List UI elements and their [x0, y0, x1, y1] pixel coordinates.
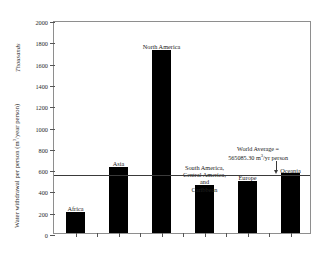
- y-tick-mark: [50, 65, 55, 66]
- bar-label-line: Asia: [94, 160, 142, 167]
- y-tick-label: 800: [39, 146, 48, 153]
- plot-inner: 0200400600800100012001400160018002000Afr…: [54, 22, 310, 233]
- chart-root: Thousands Water withdrawal per person (m…: [0, 0, 321, 256]
- y-tick-label: 400: [39, 189, 48, 196]
- y-tick-label: 600: [39, 168, 48, 175]
- x-tick-mark: [183, 233, 184, 237]
- bar-label: Africa: [51, 205, 99, 212]
- bar-label-line: North America: [137, 43, 185, 50]
- y-tick-label: 1000: [35, 125, 48, 132]
- y-axis-title-main: Water withdrawal per person (m: [13, 141, 20, 228]
- y-tick-label: 200: [39, 210, 48, 217]
- bar-label-line: Africa: [51, 205, 99, 212]
- x-tick-mark: [248, 233, 249, 237]
- y-tick-mark: [50, 107, 55, 108]
- bar-label: Asia: [94, 160, 142, 167]
- thousands-axis-note: Thousands: [14, 43, 21, 72]
- x-tick-mark: [162, 233, 163, 237]
- y-tick-label: 1400: [35, 82, 48, 89]
- y-axis-title-tail: /year person): [13, 104, 20, 139]
- world-average-value: 565085.30 m: [228, 154, 261, 161]
- bar[interactable]: [238, 181, 257, 233]
- bar-label-line: Central America, and: [180, 171, 228, 185]
- y-tick-mark: [50, 235, 55, 236]
- y-axis-unit-exponent: 3: [12, 139, 17, 141]
- bar-label-line: Caribbean: [180, 186, 228, 193]
- world-average-line: [54, 175, 310, 176]
- y-tick-mark: [50, 129, 55, 130]
- bar[interactable]: [152, 50, 171, 233]
- bar[interactable]: [281, 173, 300, 233]
- y-tick-mark: [50, 86, 55, 87]
- world-average-arrow-head: [274, 170, 278, 174]
- x-tick-mark: [291, 233, 292, 237]
- y-tick-label: 1600: [35, 61, 48, 68]
- y-tick-mark: [50, 214, 55, 215]
- y-axis-title: Water withdrawal per person (m3/year per…: [12, 104, 20, 228]
- bar-label-line: South America,: [180, 164, 228, 171]
- bar[interactable]: [109, 167, 128, 233]
- bar-label: North America: [137, 43, 185, 50]
- x-tick-mark: [269, 233, 270, 237]
- bar-label: South America,Central America, andCaribb…: [180, 164, 228, 193]
- x-tick-mark: [119, 233, 120, 237]
- y-tick-label: 1800: [35, 40, 48, 47]
- plot-area: 0200400600800100012001400160018002000Afr…: [53, 21, 311, 234]
- y-tick-label: 2000: [35, 19, 48, 26]
- x-tick-mark: [97, 233, 98, 237]
- y-tick-mark: [50, 150, 55, 151]
- y-tick-mark: [50, 43, 55, 44]
- x-tick-mark: [226, 233, 227, 237]
- bar[interactable]: [66, 212, 85, 233]
- world-average-annotation: World Average =565085.30 m3/yr person: [228, 145, 288, 162]
- x-tick-mark: [205, 233, 206, 237]
- y-tick-mark: [50, 171, 55, 172]
- y-tick-label: 0: [45, 232, 48, 239]
- y-tick-label: 1200: [35, 104, 48, 111]
- y-tick-mark: [50, 192, 55, 193]
- x-tick-mark: [140, 233, 141, 237]
- world-average-line1: World Average =: [228, 145, 288, 152]
- x-tick-mark: [76, 233, 77, 237]
- y-tick-mark: [50, 22, 55, 23]
- world-average-line2: 565085.30 m3/yr person: [228, 152, 288, 161]
